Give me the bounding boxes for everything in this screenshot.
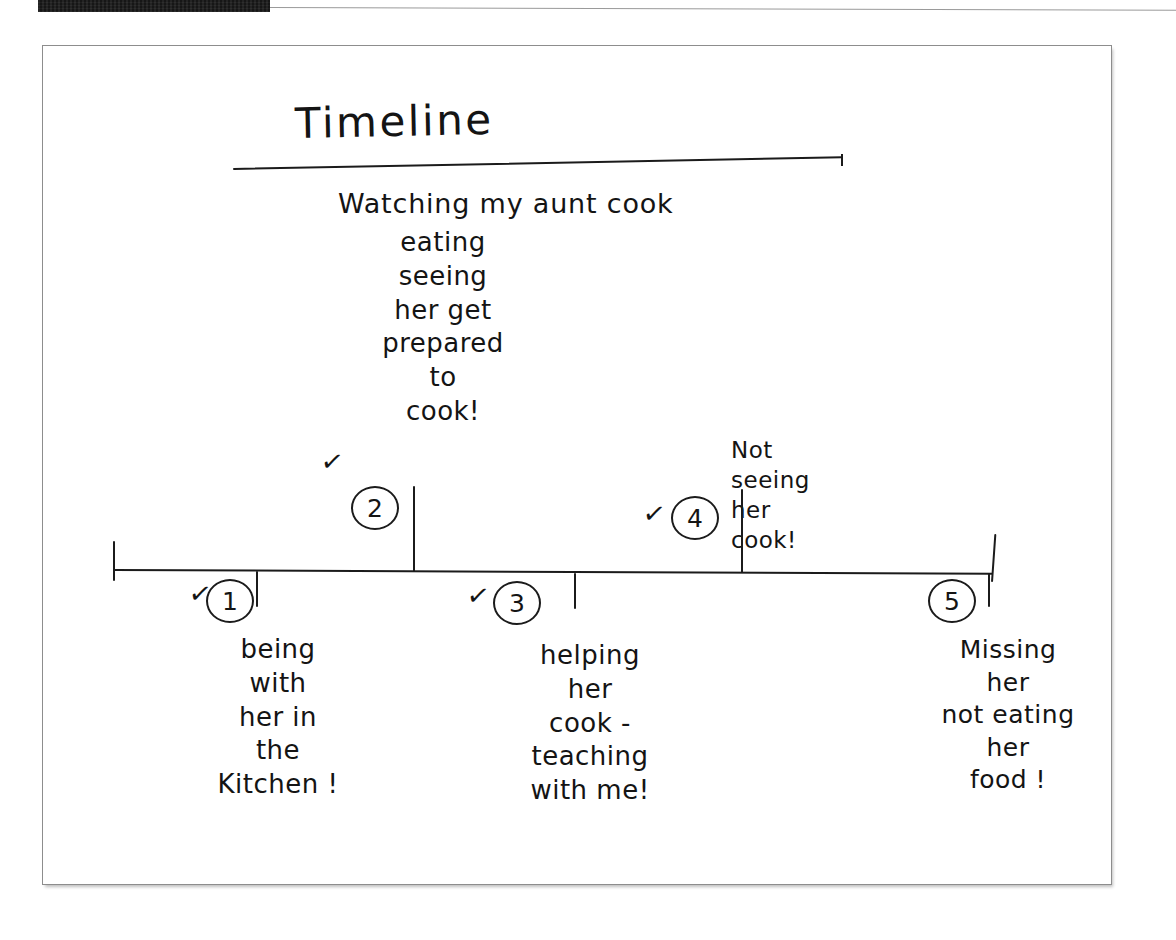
screenshot-root: Timeline Watching my aunt cook eating se…	[0, 0, 1176, 940]
timeline-tick-3	[574, 573, 576, 609]
entry-1-number-marker: 1	[206, 579, 254, 623]
entry-2-checkmark: ✓	[319, 445, 346, 479]
entry-4-number-marker: 4	[671, 496, 719, 540]
timeline-left-end-cap	[113, 541, 115, 581]
timeline-right-end-cap	[991, 534, 996, 582]
entry-3-checkmark: ✓	[465, 579, 492, 613]
entry-3-number-marker: 3	[493, 581, 541, 625]
entry-5-number-marker: 5	[928, 579, 976, 623]
entry-4-checkmark: ✓	[641, 497, 668, 531]
scanned-worksheet-page: Timeline Watching my aunt cook eating se…	[42, 45, 1112, 885]
title-underline-end-cap	[841, 154, 843, 166]
entry-2-number-marker: 2	[351, 486, 399, 530]
entry-2-body-text: eating seeing her get prepared to cook!	[343, 226, 543, 429]
entry-4-body-text: Not seeing her cook!	[731, 436, 841, 556]
entry-5-body-text: Missing her not eating her food !	[923, 634, 1093, 797]
header-banner-strip	[38, 0, 270, 12]
timeline-tick-1	[256, 571, 258, 607]
header-divider-rule	[270, 7, 1176, 11]
entry-1-body-text: being with her in the Kitchen !	[188, 633, 368, 802]
timeline-axis	[113, 569, 993, 575]
entry-2-lead-line: Watching my aunt cook	[338, 188, 674, 219]
timeline-tick-5	[988, 573, 990, 607]
timeline-tick-2	[413, 486, 415, 572]
timeline-tick-4	[741, 489, 743, 573]
page-title: Timeline	[295, 96, 495, 149]
entry-3-body-text: helping her cook - teaching with me!	[495, 639, 685, 808]
title-underline	[233, 156, 843, 170]
